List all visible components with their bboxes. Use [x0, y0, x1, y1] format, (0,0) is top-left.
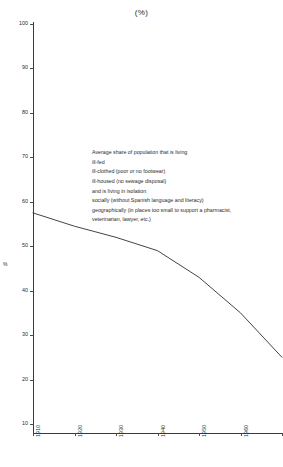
annotation-line: veterinarian, lawyer, etc.) — [92, 215, 231, 225]
annotation-line: socially (without Spanish language and l… — [92, 196, 231, 206]
chart-annotation-block: Average share of population that is livi… — [92, 148, 231, 225]
annotation-line: ill-housed (no sewage disposal) — [92, 177, 231, 187]
data-line-plot — [0, 0, 283, 467]
series-line-average-share — [33, 213, 282, 357]
annotation-line: geographically (in places too small to s… — [92, 206, 231, 216]
annotation-line: Average share of population that is livi… — [92, 148, 231, 158]
annotation-line: and is living in isolation — [92, 187, 231, 197]
chart-figure: (%) 100908070605040302010 % 191019201930… — [0, 0, 283, 467]
annotation-line: ill-fed — [92, 158, 231, 168]
annotation-line: ill-clothed (poor or no footwear) — [92, 167, 231, 177]
